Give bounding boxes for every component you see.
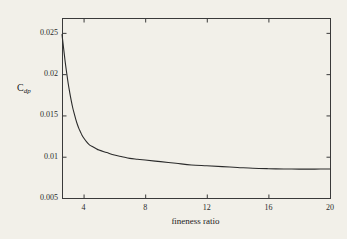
y-axis-title-base: C bbox=[17, 82, 24, 93]
y-tick-label: 0.015 bbox=[40, 111, 58, 119]
y-tick-label: 0.005 bbox=[40, 194, 58, 202]
y-tick-label: 0.02 bbox=[44, 70, 58, 78]
x-tick-label: 20 bbox=[310, 204, 347, 212]
x-axis-title-text: fineness ratio bbox=[171, 216, 219, 226]
y-axis-title: Cdp bbox=[17, 83, 31, 95]
y-tick-label: 0.01 bbox=[44, 153, 58, 161]
y-axis-title-subscript: dp bbox=[24, 87, 31, 95]
y-tick-label: 0.025 bbox=[40, 29, 58, 37]
x-tick-label: 8 bbox=[125, 204, 165, 212]
x-tick-label: 16 bbox=[248, 204, 288, 212]
x-axis-title: fineness ratio bbox=[0, 216, 347, 226]
x-tick-label: 12 bbox=[187, 204, 227, 212]
chart-figure: 0.0050.010.0150.020.025 48121620 Cdp fin… bbox=[0, 0, 347, 239]
x-tick-label: 4 bbox=[64, 204, 104, 212]
